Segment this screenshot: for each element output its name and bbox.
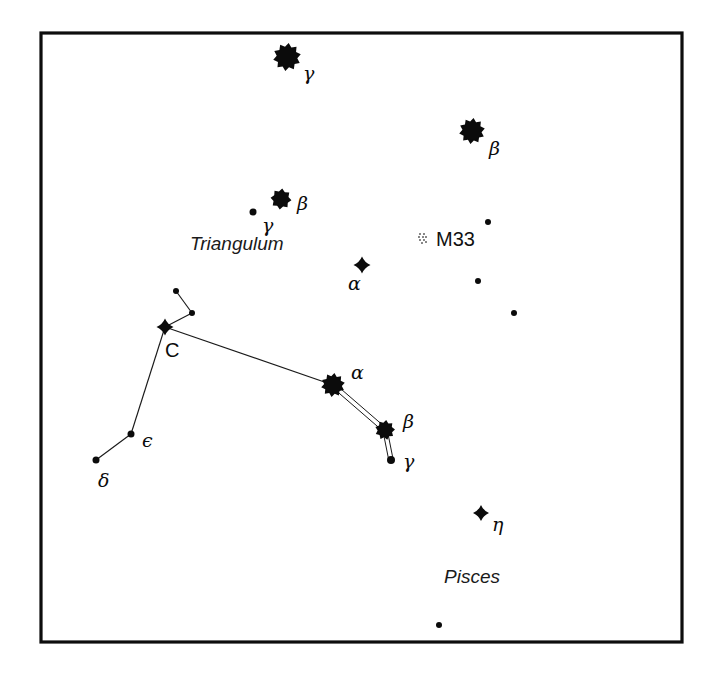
star-label-and-gamma: γ xyxy=(303,62,315,84)
star-label-tri-alpha: α xyxy=(348,272,361,294)
star-marker xyxy=(436,622,442,628)
star-marker xyxy=(475,278,481,284)
star-label-psc-epsilon: ϵ xyxy=(142,429,153,451)
star-label-psc-c: C xyxy=(165,339,179,361)
star-marker xyxy=(173,288,179,294)
star-label-psc-beta: β xyxy=(402,410,414,432)
star-label-tri-beta: β xyxy=(296,192,308,214)
chart-frame-border xyxy=(41,33,682,642)
star-marker xyxy=(93,457,100,464)
star-label-psc-eta: η xyxy=(492,513,504,535)
star-marker xyxy=(485,219,491,225)
star-label-and-beta: β xyxy=(488,137,500,159)
star-label-psc-gamma: γ xyxy=(403,450,415,472)
triangulum-label: Triangulum xyxy=(190,233,284,254)
sky-map-canvas: M33 γββγαCαβγϵδη TriangulumPisces xyxy=(0,0,719,675)
star-marker xyxy=(250,209,257,216)
star-label-psc-alpha: α xyxy=(351,361,364,383)
star-marker xyxy=(128,431,135,438)
star-marker xyxy=(387,456,395,464)
star-chart-figure: M33 γββγαCαβγϵδη TriangulumPisces xyxy=(0,0,719,675)
deep-sky-label-m33: M33 xyxy=(436,228,475,250)
star-marker xyxy=(511,310,517,316)
pisces-label: Pisces xyxy=(444,566,500,587)
star-label-psc-delta: δ xyxy=(98,469,109,491)
star-marker xyxy=(189,310,195,316)
